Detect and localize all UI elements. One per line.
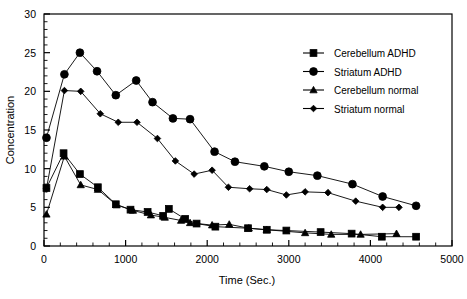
x-tick-label: 4000 xyxy=(359,253,383,265)
y-axis-tick-labels: 051015202530 xyxy=(24,8,36,252)
series-2 xyxy=(43,153,400,238)
square-marker xyxy=(348,230,355,237)
legend-item[interactable]: Cerebellum ADHD xyxy=(303,48,416,59)
circle-marker xyxy=(379,193,387,201)
diamond-marker xyxy=(263,186,270,193)
circle-marker xyxy=(112,91,120,99)
diamond-marker xyxy=(191,171,198,178)
triangle-marker xyxy=(226,221,233,227)
chart-figure: 010002000300040005000 051015202530 Cereb… xyxy=(0,0,467,299)
diamond-marker xyxy=(310,105,317,112)
circle-marker xyxy=(93,67,101,75)
x-tick-label: 1000 xyxy=(114,253,138,265)
concentration-vs-time-line-chart: 010002000300040005000 051015202530 Cereb… xyxy=(0,0,467,299)
circle-marker xyxy=(313,172,321,180)
square-marker xyxy=(165,205,172,212)
x-axis-ticks xyxy=(44,240,452,246)
square-marker xyxy=(310,50,317,57)
y-tick-label: 30 xyxy=(24,8,36,20)
diamond-marker xyxy=(379,204,386,211)
legend-label: Cerebellum ADHD xyxy=(334,48,416,59)
legend-label: Striatum ADHD xyxy=(334,67,402,78)
x-axis-title: Time (Sec.) xyxy=(219,274,275,286)
diamond-marker xyxy=(283,192,290,199)
series-line xyxy=(46,156,396,234)
circle-marker xyxy=(231,158,239,166)
circle-marker xyxy=(76,49,84,57)
square-marker xyxy=(413,233,420,240)
diamond-marker xyxy=(115,119,122,126)
circle-marker xyxy=(211,148,219,156)
circle-marker xyxy=(285,168,293,176)
triangle-marker xyxy=(77,181,84,187)
circle-marker xyxy=(149,98,157,106)
circle-marker xyxy=(260,162,268,170)
y-tick-label: 10 xyxy=(24,163,36,175)
x-tick-label: 5000 xyxy=(440,253,464,265)
legend-item[interactable]: Cerebellum normal xyxy=(303,85,418,96)
diamond-marker xyxy=(246,185,253,192)
y-tick-label: 5 xyxy=(30,201,36,213)
y-axis-title: Concentration xyxy=(4,96,16,165)
diamond-marker xyxy=(61,87,68,94)
circle-marker xyxy=(349,180,357,188)
diamond-marker xyxy=(302,189,309,196)
x-tick-label: 0 xyxy=(41,253,47,265)
x-axis-tick-labels: 010002000300040005000 xyxy=(41,253,464,265)
triangle-marker xyxy=(393,230,400,236)
circle-marker xyxy=(132,77,140,85)
x-tick-label: 2000 xyxy=(196,253,220,265)
circle-marker xyxy=(61,70,69,78)
square-marker xyxy=(283,227,290,234)
circle-marker xyxy=(186,115,194,123)
diamond-marker xyxy=(396,204,403,211)
square-marker xyxy=(77,171,84,178)
diamond-marker xyxy=(325,189,332,196)
circle-marker xyxy=(169,115,177,123)
legend-item[interactable]: Striatum ADHD xyxy=(303,67,402,78)
square-marker xyxy=(317,229,324,236)
circle-marker xyxy=(43,134,51,142)
circle-marker xyxy=(412,202,420,210)
chart-legend: Cerebellum ADHDStriatum ADHDCerebellum n… xyxy=(303,48,418,115)
diamond-marker xyxy=(352,198,359,205)
legend-label: Cerebellum normal xyxy=(334,85,418,96)
y-tick-label: 20 xyxy=(24,85,36,97)
y-tick-label: 25 xyxy=(24,47,36,59)
y-tick-label: 0 xyxy=(30,240,36,252)
circle-marker xyxy=(310,68,318,76)
legend-label: Striatum normal xyxy=(334,104,405,115)
y-tick-label: 15 xyxy=(24,124,36,136)
legend-item[interactable]: Striatum normal xyxy=(303,104,405,115)
x-tick-label: 3000 xyxy=(277,253,301,265)
